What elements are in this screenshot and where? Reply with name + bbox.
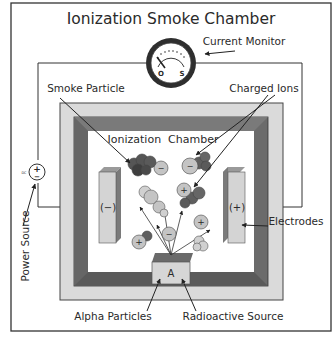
chamber-bevel-left (74, 117, 88, 286)
electrodes-label: Electrodes (268, 215, 323, 227)
radioactive-source-box: A (152, 253, 193, 284)
smoke-particle-label: Smoke Particle (47, 82, 125, 94)
ion-plus-symbol: + (197, 217, 205, 227)
diagram-title: Ionization Smoke Chamber (67, 10, 276, 28)
negative-electrode: (−) (99, 167, 121, 243)
ion-plus-symbol: + (135, 237, 143, 247)
ion-minus-symbol: − (166, 230, 173, 239)
dc-label: DC (21, 171, 27, 175)
radioactive-source-label: Radioactive Source (183, 310, 284, 322)
ion-minus-symbol: − (187, 162, 194, 171)
ionization-smoke-chamber-diagram: Ionization Smoke Chamber Ionization Cham… (0, 0, 335, 339)
positive-electrode: (+) (223, 167, 245, 243)
positive-electrode-label: (+) (229, 202, 245, 213)
current-monitor-meter: O S (146, 38, 196, 88)
meter-scale-mark: S (179, 70, 184, 78)
chamber-bevel-top (74, 117, 268, 131)
current-monitor-label: Current Monitor (203, 35, 286, 47)
ion-plus-symbol: + (180, 185, 188, 195)
ion-minus-symbol: − (158, 164, 165, 173)
meter-zero-mark: O (158, 70, 164, 78)
power-source-label: Power Source (19, 210, 31, 281)
ionization-chamber-label: Ionization Chamber (108, 133, 219, 146)
negative-electrode-label: (−) (100, 202, 116, 213)
alpha-particles-label: Alpha Particles (74, 310, 151, 322)
source-letter: A (168, 268, 175, 279)
battery-minus: − (34, 173, 40, 181)
charged-ions-label: Charged Ions (229, 82, 298, 94)
